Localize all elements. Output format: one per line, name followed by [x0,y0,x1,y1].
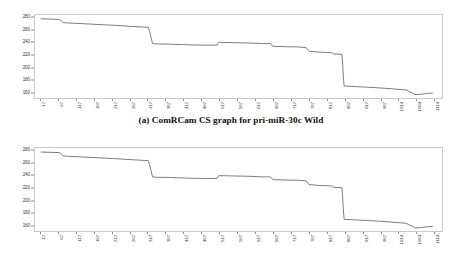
y-tick-label: 240 [23,40,30,45]
x-tick-label: 217 [114,102,118,109]
x-tick-label: 1114 [436,102,440,111]
y-tick-label: 200 [23,65,30,70]
x-tick-label: 817 [329,235,333,242]
y-tick-label: 240 [23,173,30,178]
x-tick-mark [165,232,166,234]
x-tick-label: 517 [221,102,225,109]
x-tick-mark [327,99,328,101]
x-tick-label: 167 [96,102,100,109]
x-tick-label: 617 [257,102,261,109]
x-tick-label: 967 [383,102,387,109]
line-series-b [35,148,442,231]
series-line [41,19,433,95]
x-tick-label: 1014 [400,235,404,244]
x-tick-label: 467 [204,235,208,242]
x-tick-mark [165,99,166,101]
x-tick-mark [201,232,202,234]
x-tick-label: 367 [168,102,172,109]
x-tick-mark [147,232,148,234]
x-tick-label: 217 [114,235,118,242]
x-tick-label: 67 [60,235,64,240]
chart-block-a: 280260240220200180160 176711716721726731… [0,0,462,112]
figure-b: 280260240220200180160 176711716721726731… [0,133,462,267]
x-tick-mark [76,232,77,234]
x-tick-label: 1064 [418,102,422,111]
x-tick-label: 67 [60,102,64,107]
x-tick-label: 617 [257,235,261,242]
x-tick-mark [94,99,95,101]
y-tick-label: 280 [23,15,30,20]
x-tick-mark [219,232,220,234]
y-tick-label: 160 [23,223,30,228]
x-tick-label: 117 [78,102,82,109]
x-tick-mark [398,99,399,101]
x-axis-b: 1767117167217267317367417467517567617667… [34,232,443,260]
x-tick-label: 267 [132,102,136,109]
x-tick-label: 367 [168,235,172,242]
x-tick-label: 417 [186,102,190,109]
figure-caption-a: (a) ComRCam CS graph for pri-miR-30c Wil… [0,115,462,125]
x-tick-label: 667 [275,102,279,109]
y-tick-label: 260 [23,27,30,32]
x-tick-label: 817 [329,102,333,109]
x-tick-mark [130,99,131,101]
x-tick-mark [255,232,256,234]
x-tick-mark [416,232,417,234]
x-tick-label: 867 [347,235,351,242]
x-tick-mark [58,99,59,101]
x-tick-mark [381,99,382,101]
plot-frame-a [34,14,443,99]
series-line [41,152,433,228]
x-tick-mark [219,99,220,101]
x-tick-label: 717 [293,235,297,242]
x-tick-mark [363,99,364,101]
x-tick-mark [255,99,256,101]
x-tick-mark [94,232,95,234]
y-tick-label: 220 [23,53,30,58]
x-tick-mark [237,232,238,234]
y-tick-label: 180 [23,78,30,83]
x-tick-label: 967 [383,235,387,242]
y-axis-a: 280260240220200180160 [0,14,34,99]
x-tick-mark [291,99,292,101]
x-tick-mark [309,232,310,234]
y-tick-label: 180 [23,211,30,216]
x-tick-label: 867 [347,102,351,109]
x-tick-mark [130,232,131,234]
x-tick-mark [40,99,41,101]
x-tick-mark [237,99,238,101]
x-tick-label: 767 [311,235,315,242]
y-axis-b: 280260240220200180160 [0,147,34,232]
x-tick-label: 317 [150,235,154,242]
y-tick-label: 200 [23,198,30,203]
x-tick-label: 117 [78,235,82,242]
x-tick-mark [76,99,77,101]
x-tick-mark [58,232,59,234]
chart-block-b: 280260240220200180160 176711716721726731… [0,133,462,245]
x-tick-label: 17 [42,102,46,107]
x-tick-mark [434,232,435,234]
x-tick-mark [273,232,274,234]
x-tick-label: 567 [239,102,243,109]
x-tick-mark [201,99,202,101]
x-tick-mark [40,232,41,234]
x-tick-label: 267 [132,235,136,242]
x-tick-mark [363,232,364,234]
line-series-a [35,15,442,98]
x-tick-label: 467 [204,102,208,109]
x-tick-mark [112,99,113,101]
x-tick-label: 917 [365,235,369,242]
x-tick-mark [112,232,113,234]
figure-a: 280260240220200180160 176711716721726731… [0,0,462,133]
x-tick-mark [291,232,292,234]
x-tick-label: 717 [293,102,297,109]
x-tick-mark [327,232,328,234]
x-tick-mark [273,99,274,101]
x-tick-label: 317 [150,102,154,109]
x-tick-label: 1114 [436,235,440,244]
x-tick-mark [416,99,417,101]
x-tick-label: 767 [311,102,315,109]
x-tick-label: 1014 [400,102,404,111]
x-tick-label: 417 [186,235,190,242]
y-tick-label: 280 [23,148,30,153]
